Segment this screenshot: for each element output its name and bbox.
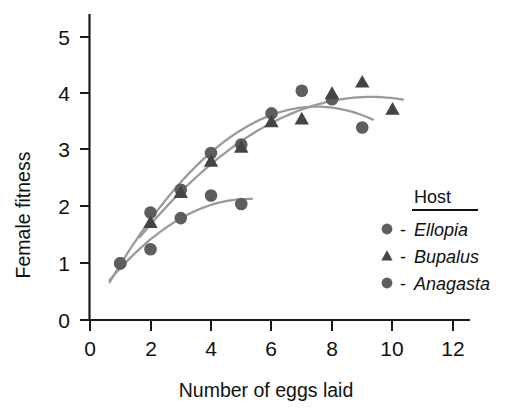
scatter-plot: 5 4 3 2 1 0 Female fitness 0 <box>0 0 530 416</box>
y-tick-label-2: 2 <box>58 195 70 218</box>
data-points-layer <box>114 75 400 270</box>
x-tick-label-6: 6 <box>265 337 277 360</box>
x-tick-label-12: 12 <box>441 337 464 360</box>
y-axis-title: Female fitness <box>12 151 34 278</box>
legend-dash-anagasta: - <box>400 274 406 294</box>
legend-entry-anagasta[interactable]: - Anagasta <box>382 274 490 294</box>
legend: Host - Ellopia - Bupalus - Anagasta <box>381 187 490 294</box>
figure-container: 5 4 3 2 1 0 Female fitness 0 <box>0 0 530 416</box>
y-tick-label-0: 0 <box>58 309 70 332</box>
x-axis-title: Number of eggs laid <box>179 379 354 401</box>
fit-curve-ellopia <box>110 107 373 282</box>
data-point-circle <box>235 198 248 211</box>
legend-circle-icon-ellopia <box>382 224 393 235</box>
data-point-circle <box>295 84 308 97</box>
x-axis-ticks <box>90 320 453 331</box>
x-axis-tick-labels: 0 2 4 6 8 10 12 <box>84 337 465 360</box>
data-point-circle <box>144 243 157 256</box>
y-tick-label-3: 3 <box>58 138 70 161</box>
x-tick-label-8: 8 <box>326 337 338 360</box>
legend-label-anagasta: Anagasta <box>413 274 490 294</box>
legend-dash-ellopia: - <box>400 220 406 240</box>
x-tick-label-0: 0 <box>84 337 96 360</box>
legend-label-ellopia: Ellopia <box>414 220 468 240</box>
y-tick-label-4: 4 <box>58 82 70 105</box>
y-axis-tick-labels: 5 4 3 2 1 0 <box>58 26 70 332</box>
legend-triangle-icon-bupalus <box>381 250 392 260</box>
fit-curve-anagasta <box>110 199 252 280</box>
legend-label-bupalus: Bupalus <box>414 247 479 267</box>
data-point-circle <box>114 257 127 270</box>
legend-entry-bupalus[interactable]: - Bupalus <box>381 247 479 267</box>
x-tick-label-10: 10 <box>380 337 403 360</box>
data-point-circle <box>205 189 218 202</box>
x-axis: 0 2 4 6 8 10 12 Number of eggs laid <box>84 320 470 401</box>
data-point-triangle <box>385 102 399 115</box>
data-point-triangle <box>295 112 309 125</box>
y-axis-ticks <box>80 37 90 320</box>
data-point-circle <box>174 212 187 225</box>
data-point-triangle <box>325 86 339 99</box>
y-tick-label-1: 1 <box>58 252 70 275</box>
legend-dash-bupalus: - <box>400 247 406 267</box>
data-point-circle <box>356 121 369 134</box>
legend-title: Host <box>414 187 451 207</box>
legend-entry-ellopia[interactable]: - Ellopia <box>382 220 468 240</box>
legend-circle-icon-anagasta <box>382 278 393 289</box>
y-axis: 5 4 3 2 1 0 Female fitness <box>12 14 90 332</box>
y-tick-label-5: 5 <box>58 26 70 49</box>
x-tick-label-2: 2 <box>145 337 157 360</box>
x-tick-label-4: 4 <box>205 337 217 360</box>
data-point-triangle <box>355 75 369 88</box>
